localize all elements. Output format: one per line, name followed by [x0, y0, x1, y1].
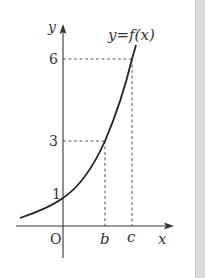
page-edge-bar — [195, 0, 205, 278]
y-tick-3: 3 — [49, 133, 58, 149]
x-tick-b: b — [100, 230, 110, 248]
guide-lines — [63, 59, 132, 226]
y-tick-6: 6 — [49, 51, 58, 67]
x-tick-c: c — [127, 228, 136, 246]
function-curve — [20, 45, 136, 218]
function-label: y=f(x) — [107, 26, 155, 44]
x-axis-label: x — [158, 230, 167, 248]
y-tick-1: 1 — [52, 186, 61, 202]
origin-label: O — [50, 231, 61, 247]
y-axis-label: y — [47, 19, 57, 35]
function-graph: y=f(x) y x O 6 3 1 b c — [0, 0, 205, 278]
